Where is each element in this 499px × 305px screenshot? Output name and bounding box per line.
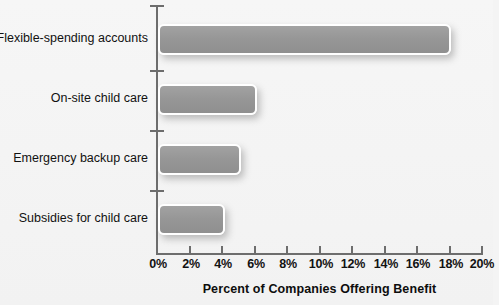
x-axis-tick bbox=[189, 246, 191, 255]
x-axis-tick bbox=[156, 246, 158, 255]
category-label-on-site-child-care: On-site child care bbox=[0, 91, 148, 105]
x-axis-tick bbox=[481, 246, 483, 255]
y-axis-tick bbox=[150, 190, 164, 192]
y-axis-tick bbox=[150, 130, 164, 132]
category-label-subsidies-for-child-care: Subsidies for child care bbox=[0, 211, 148, 225]
x-axis-tick bbox=[351, 246, 353, 255]
x-axis-tick bbox=[286, 246, 288, 255]
x-axis-tick bbox=[254, 246, 256, 255]
x-axis-tick bbox=[319, 246, 321, 255]
x-axis-tick bbox=[384, 246, 386, 255]
x-axis-tick bbox=[221, 246, 223, 255]
bar-subsidies-for-child-care bbox=[158, 204, 225, 235]
bar-emergency-backup-care bbox=[158, 144, 241, 175]
y-axis-tick bbox=[150, 70, 164, 72]
category-label-flexible-spending-accounts: Flexible-spending accounts bbox=[0, 31, 148, 45]
category-label-emergency-backup-care: Emergency backup care bbox=[0, 151, 148, 165]
bar-on-site-child-care bbox=[158, 84, 257, 115]
x-axis-tick-label: 20% bbox=[460, 257, 499, 271]
x-axis-tick bbox=[416, 246, 418, 255]
bar-flexible-spending-accounts bbox=[158, 24, 451, 55]
x-axis-title: Percent of Companies Offering Benefit bbox=[156, 282, 483, 296]
x-axis-tick bbox=[449, 246, 451, 255]
